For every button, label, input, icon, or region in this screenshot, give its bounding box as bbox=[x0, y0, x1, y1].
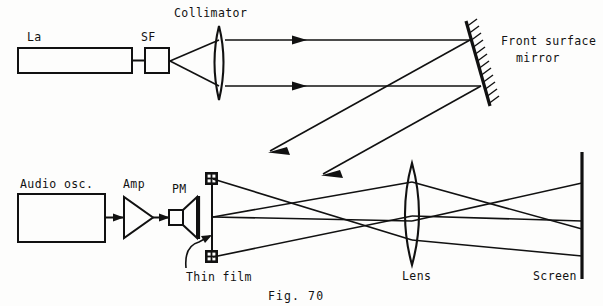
audio-oscillator-box bbox=[18, 194, 105, 242]
label-thin-film: Thin film bbox=[186, 270, 252, 284]
label-collimator: Collimator bbox=[174, 6, 247, 20]
label-transducer: PM bbox=[172, 182, 187, 196]
laser-body bbox=[18, 48, 132, 73]
label-audio-oscillator: Audio osc. bbox=[20, 177, 93, 191]
collimator-lens bbox=[215, 26, 224, 100]
film-ray-c bbox=[213, 217, 412, 221]
spatial-filter-box bbox=[145, 48, 169, 73]
pm-horn bbox=[183, 197, 197, 238]
label-mirror-line2: mirror bbox=[516, 51, 560, 65]
ray-arrowhead-lower bbox=[292, 82, 307, 91]
reflected-ray-lower bbox=[323, 86, 481, 174]
ray-arrowhead-upper bbox=[292, 36, 307, 45]
osc-amp-arrowhead bbox=[113, 214, 124, 222]
diverging-ray-lower bbox=[170, 61, 219, 86]
lens-ray-d bbox=[412, 216, 582, 221]
figure-canvas: La SF Collimator Front surface mirror Au… bbox=[0, 0, 603, 306]
figure-caption: Fig. 70 bbox=[268, 289, 324, 303]
label-screen: Screen bbox=[533, 269, 577, 283]
thin-film-clamp-top bbox=[205, 172, 218, 185]
label-lens: Lens bbox=[402, 269, 431, 283]
pm-body-square bbox=[169, 210, 183, 225]
label-amplifier: Amp bbox=[123, 177, 145, 191]
film-ray-a bbox=[213, 179, 412, 240]
pm-transducer bbox=[169, 196, 199, 239]
label-spatial-filter: SF bbox=[141, 30, 156, 44]
optical-diagram: La SF Collimator Front surface mirror Au… bbox=[0, 0, 603, 306]
label-mirror-line1: Front surface bbox=[501, 34, 596, 48]
reflected-ray-upper bbox=[270, 40, 470, 151]
film-ray-d bbox=[213, 216, 412, 257]
front-surface-mirror bbox=[466, 19, 499, 106]
amplifier-triangle bbox=[124, 197, 153, 238]
diverging-ray-upper bbox=[170, 40, 219, 61]
film-ray-b bbox=[213, 182, 412, 217]
projection-lens bbox=[405, 163, 419, 265]
lens-ray-a bbox=[412, 240, 582, 256]
thin-film-leader-arrowhead bbox=[201, 235, 212, 243]
thin-film-assembly bbox=[186, 172, 218, 268]
label-laser: La bbox=[27, 30, 42, 44]
